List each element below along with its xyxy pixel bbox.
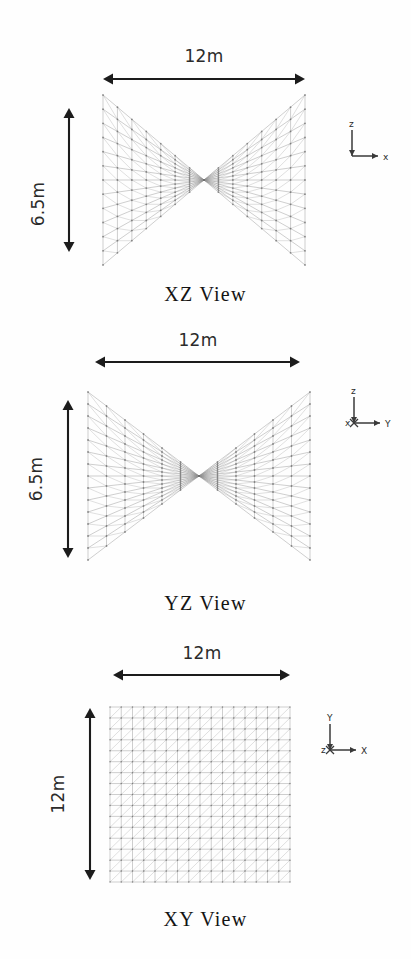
dimension-label-side-yz: 6.5m (26, 439, 46, 519)
view-caption-yz: YZ View (0, 592, 411, 615)
axis-label-right: X (361, 746, 367, 756)
dimension-arrow-horizontal (99, 664, 304, 686)
view-caption-xy: XY View (0, 908, 411, 931)
axis-label-right: x (383, 152, 389, 162)
axis-label-up: Y (326, 713, 333, 723)
mesh-xz (103, 95, 305, 265)
mesh-yz (88, 392, 310, 560)
dimension-label-top-xy: 12m (162, 643, 242, 663)
dimension-label-side-xy: 12m (48, 754, 68, 834)
dimension-arrow-vertical (79, 694, 101, 894)
axis-triad-xz: zx (340, 118, 398, 170)
dimension-label-top-xz: 12m (164, 46, 244, 66)
axis-triad-xy: YXz (318, 712, 376, 764)
axis-label-right: Y (384, 419, 391, 429)
mesh-xy (110, 707, 290, 882)
axis-label-up: z (351, 386, 356, 396)
dimension-arrow-vertical (58, 94, 80, 266)
dimension-arrow-horizontal (89, 68, 319, 90)
view-caption-xz: XZ View (0, 283, 411, 306)
axis-triad-yz: zYx (342, 385, 400, 437)
axis-label-normal: z (321, 745, 326, 755)
axis-label-up: z (349, 119, 354, 129)
figure-page: 12m6.5mzxXZ View12m6.5mzYxYZ View12m12mY… (0, 0, 411, 959)
dimension-arrow-horizontal (81, 351, 314, 373)
dimension-arrow-vertical (57, 386, 79, 572)
dimension-label-top-yz: 12m (158, 330, 238, 350)
dimension-label-side-xz: 6.5m (28, 164, 48, 244)
axis-label-normal: x (345, 418, 351, 428)
